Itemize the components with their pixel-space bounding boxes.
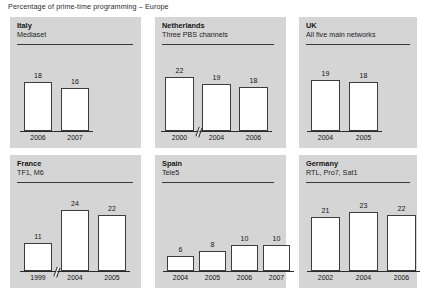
x-tick-label: 2004 — [308, 134, 343, 142]
x-tick-label: 2006 — [21, 134, 55, 142]
panel-country-label: Italy — [17, 21, 135, 30]
bar — [263, 245, 290, 271]
page-title: Percentage of prime-time programming – E… — [8, 2, 169, 11]
bar — [98, 215, 126, 271]
x-tick-label: 2006 — [228, 274, 261, 282]
bar-value-label: 19 — [311, 70, 340, 78]
panel-channels-label: Three PBS channels — [162, 30, 280, 40]
x-tick-label: 2004 — [58, 274, 92, 282]
bar — [199, 251, 226, 271]
bar-value-label: 10 — [263, 235, 290, 243]
chart-panel-spain: SpainTele56200482005102006102007 — [155, 155, 286, 288]
chart-panel-italy: ItalyMediaset182006162007 — [10, 17, 141, 148]
x-tick-label: 2004 — [346, 274, 381, 282]
header-divider — [17, 44, 133, 45]
x-tick-label: 2005 — [346, 134, 381, 142]
bar-value-label: 10 — [231, 235, 258, 243]
bar-value-label: 18 — [349, 72, 378, 80]
axis-baseline — [307, 131, 382, 132]
bar-value-label: 21 — [311, 207, 340, 215]
bar — [311, 217, 340, 271]
x-tick-label: 2002 — [308, 274, 343, 282]
panel-channels-label: TF1, M6 — [17, 168, 135, 178]
bar-value-label: 22 — [387, 205, 416, 213]
x-tick-label: 2007 — [58, 134, 92, 142]
x-tick-label: 2004 — [199, 134, 234, 142]
bar — [311, 80, 340, 131]
bar-value-label: 18 — [239, 77, 268, 85]
axis-baseline — [163, 271, 294, 272]
axis-baseline — [20, 271, 130, 272]
panel-header: GermanyRTL, Pro7, Sat1 — [306, 159, 411, 178]
panel-country-label: France — [17, 159, 135, 168]
bar — [349, 212, 378, 271]
chart-panel-germany: GermanyRTL, Pro7, Sat1212002232004222006 — [299, 155, 417, 288]
panel-header: NetherlandsThree PBS channels — [162, 21, 280, 40]
bar — [165, 77, 194, 131]
axis-baseline — [20, 131, 93, 132]
bar-value-label: 22 — [165, 67, 194, 75]
chart-panel-france: FranceTF1, M6111999242004222005 — [10, 155, 141, 288]
bar — [387, 215, 416, 271]
x-tick-label: 2005 — [95, 274, 129, 282]
panel-channels-label: Tele5 — [162, 168, 280, 178]
x-tick-label: 2000 — [162, 134, 197, 142]
bar — [239, 87, 268, 131]
x-tick-label: 2004 — [164, 274, 197, 282]
bar-value-label: 23 — [349, 202, 378, 210]
bar — [231, 245, 258, 271]
panel-channels-label: RTL, Pro7, Sat1 — [306, 168, 411, 178]
x-tick-label: 1999 — [21, 274, 55, 282]
bar-value-label: 22 — [98, 205, 126, 213]
bar-value-label: 19 — [202, 74, 231, 82]
bar-value-label: 18 — [24, 72, 52, 80]
axis-baseline — [307, 271, 420, 272]
bar — [202, 84, 231, 131]
header-divider — [306, 182, 410, 183]
header-divider — [17, 182, 133, 183]
panel-country-label: UK — [306, 21, 411, 30]
bar-value-label: 8 — [199, 241, 226, 249]
header-divider — [162, 182, 274, 183]
bar — [24, 243, 52, 271]
bar-value-label: 6 — [167, 246, 194, 254]
bar — [349, 82, 378, 131]
x-tick-label: 2006 — [384, 274, 419, 282]
bar — [167, 256, 194, 271]
bar — [24, 82, 52, 131]
panel-country-label: Spain — [162, 159, 280, 168]
panel-header: SpainTele5 — [162, 159, 280, 178]
bar — [61, 88, 89, 131]
bar-value-label: 11 — [24, 233, 52, 241]
panel-country-label: Germany — [306, 159, 411, 168]
x-tick-label: 2007 — [260, 274, 293, 282]
bar-value-label: 16 — [61, 78, 89, 86]
panel-channels-label: All five main networks — [306, 30, 411, 40]
chart-panel-netherlands: NetherlandsThree PBS channels22200019200… — [155, 17, 286, 148]
panel-header: FranceTF1, M6 — [17, 159, 135, 178]
chart-panel-uk: UKAll five main networks192004182005 — [299, 17, 417, 148]
bar-value-label: 24 — [61, 200, 89, 208]
header-divider — [306, 44, 410, 45]
chart-figure: Percentage of prime-time programming – E… — [0, 0, 421, 294]
panel-channels-label: Mediaset — [17, 30, 135, 40]
panel-header: ItalyMediaset — [17, 21, 135, 40]
panel-header: UKAll five main networks — [306, 21, 411, 40]
bar — [61, 210, 89, 271]
panel-country-label: Netherlands — [162, 21, 280, 30]
header-divider — [162, 44, 274, 45]
x-tick-label: 2005 — [196, 274, 229, 282]
x-tick-label: 2006 — [236, 134, 271, 142]
axis-baseline — [161, 131, 272, 132]
